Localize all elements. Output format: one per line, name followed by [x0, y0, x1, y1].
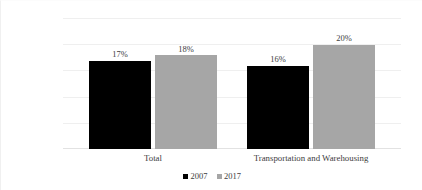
bar-wrap-transportation-2017: 20%: [313, 18, 375, 149]
bar-value-label: 20%: [313, 33, 375, 43]
category-label-total: Total: [77, 153, 229, 163]
legend-swatch-icon: [183, 174, 188, 179]
bar-total-2017[interactable]: [155, 55, 217, 149]
bar-value-label: 18%: [155, 44, 217, 54]
bar-wrap-transportation-2007: 16%: [247, 18, 309, 149]
bar-value-label: 17%: [89, 49, 151, 59]
chart-legend: 2007 2017: [1, 171, 422, 181]
bar-transportation-2007[interactable]: [247, 66, 309, 149]
legend-swatch-icon: [217, 174, 222, 179]
bar-group-total: 17% 18%: [77, 18, 229, 149]
legend-item-2017[interactable]: 2017: [217, 171, 242, 181]
bar-total-2007[interactable]: [89, 61, 151, 149]
bar-chart: Share of national employment 25% 20% 15%…: [0, 0, 422, 190]
category-label-transportation-and-warehousing: Transportation and Warehousing: [235, 153, 387, 163]
plot-area: 17% 18% 16% 20%: [63, 18, 401, 149]
bar-wrap-total-2017: 18%: [155, 18, 217, 149]
bar-value-label: 16%: [247, 54, 309, 64]
bar-wrap-total-2007: 17%: [89, 18, 151, 149]
bar-transportation-2017[interactable]: [313, 45, 375, 149]
legend-label: 2017: [224, 171, 241, 181]
legend-label: 2007: [191, 171, 208, 181]
legend-item-2007[interactable]: 2007: [183, 171, 208, 181]
bar-group-transportation-and-warehousing: 16% 20%: [235, 18, 387, 149]
